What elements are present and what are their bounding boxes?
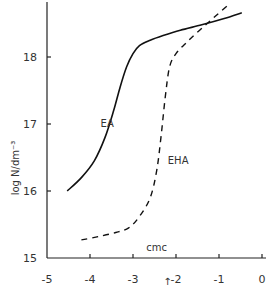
x-tick-label: 0 — [259, 273, 266, 286]
series-group — [67, 3, 242, 240]
cmc-arrow-icon: ↑ — [163, 276, 171, 287]
annotation-ea: EA — [101, 118, 114, 129]
x-tick-label: -3 — [128, 273, 139, 286]
annotations: EAEHAcmc↑ — [101, 118, 189, 286]
x-tick-label: -4 — [85, 273, 96, 286]
ticks: -5-4-3-2-1015161718 — [23, 51, 266, 286]
annotation-cmc: cmc — [146, 242, 167, 253]
y-tick-label: 16 — [23, 185, 37, 198]
x-tick-label: -1 — [214, 273, 225, 286]
series-line-ea — [67, 13, 242, 191]
annotation-eha: EHA — [168, 155, 189, 166]
chart: -5-4-3-2-1015161718 EAEHAcmc↑ log N/dm⁻³ — [0, 0, 273, 293]
y-tick-label: 18 — [23, 51, 37, 64]
x-tick-label: -2 — [171, 273, 182, 286]
x-tick-label: -5 — [42, 273, 53, 286]
axes — [47, 2, 266, 258]
y-axis-label: log N/dm⁻³ — [10, 141, 21, 196]
y-tick-label: 17 — [23, 118, 37, 131]
y-tick-label: 15 — [23, 252, 37, 265]
